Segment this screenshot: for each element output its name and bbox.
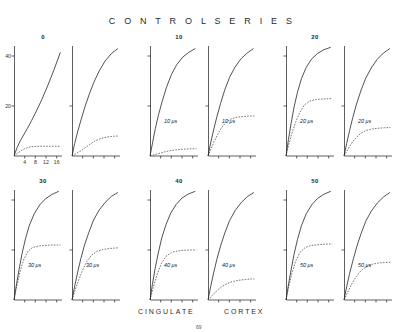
bottom-label-cingulate: CINGULATE	[138, 308, 195, 315]
panel-30-cortex	[72, 190, 126, 308]
panel-10-cortex	[208, 46, 262, 164]
page-number: 69	[196, 324, 202, 330]
figure-title: C O N T R O L S E R I E S	[0, 16, 404, 26]
annotation-duration: 10 μs	[164, 118, 177, 124]
y-tick-label-40: 40	[0, 53, 11, 59]
series-solid	[72, 49, 118, 157]
series-dashed	[208, 279, 254, 300]
series-dashed	[150, 149, 196, 156]
annotation-duration: 30 μs	[86, 262, 99, 268]
series-dashed	[72, 248, 118, 300]
figure-canvas: C O N T R O L S E R I E S 040201010 μs10…	[0, 0, 404, 332]
series-solid	[150, 49, 195, 157]
series-solid	[344, 193, 390, 301]
panel-40-cingulate	[150, 190, 204, 308]
panel-20-cortex	[344, 46, 398, 164]
series-solid	[150, 191, 195, 300]
group-label-40: 40	[167, 178, 191, 184]
series-dashed	[14, 146, 60, 156]
annotation-duration: 40 μs	[222, 262, 235, 268]
group-label-10: 10	[167, 34, 191, 40]
x-tick-label-16: 16	[52, 159, 62, 165]
panel-50-cortex	[344, 190, 398, 308]
annotation-duration: 50 μs	[358, 262, 371, 268]
x-tick-label-8: 8	[30, 159, 40, 165]
x-tick-label-4: 4	[20, 159, 30, 165]
bottom-label-cortex: CORTEX	[224, 308, 264, 315]
annotation-duration: 50 μs	[300, 262, 313, 268]
panel-10-cingulate	[150, 46, 204, 164]
x-tick-label-12: 12	[41, 159, 51, 165]
panel-50-cingulate	[286, 190, 340, 308]
series-solid	[72, 193, 118, 301]
series-dashed	[72, 136, 118, 156]
series-solid	[344, 49, 390, 157]
y-tick-label-20: 20	[0, 103, 11, 109]
group-label-20: 20	[303, 34, 327, 40]
panel-0-cortex	[72, 46, 126, 164]
series-dashed	[344, 128, 390, 157]
series-solid	[14, 191, 59, 300]
panel-0-cingulate	[14, 46, 68, 164]
series-solid	[208, 193, 254, 301]
series-solid	[14, 52, 60, 156]
group-label-50: 50	[303, 178, 327, 184]
annotation-duration: 40 μs	[164, 262, 177, 268]
series-solid	[286, 191, 331, 300]
panel-30-cingulate	[14, 190, 68, 308]
series-dashed	[286, 244, 332, 300]
annotation-duration: 30 μs	[28, 262, 41, 268]
group-label-0: 0	[31, 34, 55, 40]
group-label-30: 30	[31, 178, 55, 184]
annotation-duration: 10 μs	[222, 118, 235, 124]
panel-40-cortex	[208, 190, 262, 308]
annotation-duration: 20 μs	[358, 118, 371, 124]
series-solid	[286, 47, 331, 156]
panel-20-cingulate	[286, 46, 340, 164]
series-dashed	[14, 245, 60, 300]
annotation-duration: 20 μs	[300, 118, 313, 124]
series-dashed	[286, 99, 332, 157]
